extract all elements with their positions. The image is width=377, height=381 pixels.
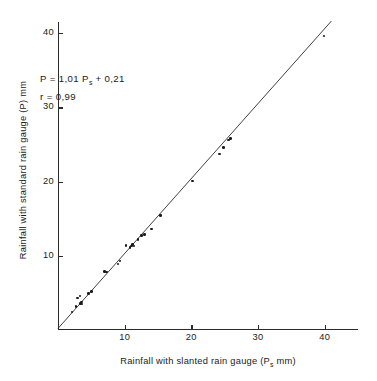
data-point bbox=[75, 305, 78, 308]
y-tick-10 bbox=[59, 256, 63, 257]
data-point bbox=[140, 234, 143, 237]
data-point bbox=[143, 233, 146, 236]
y-tick-label-40: 40 bbox=[32, 27, 54, 39]
x-tick-40 bbox=[325, 325, 326, 329]
equation-prefix: P = 1,01 P bbox=[40, 73, 89, 84]
x-tick-20 bbox=[191, 325, 192, 329]
x-tick-10 bbox=[125, 325, 126, 329]
scatter-plot-figure: Rainfall with standard rain gauge (P) mm… bbox=[0, 0, 377, 381]
data-point bbox=[159, 214, 162, 217]
data-point bbox=[87, 292, 90, 295]
y-tick-20 bbox=[59, 182, 63, 183]
x-tick-label-10: 10 bbox=[110, 332, 140, 342]
x-tick-label-20: 20 bbox=[176, 332, 206, 342]
equation-tail: + 0,21 bbox=[92, 73, 124, 84]
data-point bbox=[229, 137, 232, 140]
data-point bbox=[222, 146, 225, 149]
x-axis-label-main: Rainfall with slanted rain gauge (P bbox=[120, 356, 270, 366]
x-tick-label-30: 30 bbox=[243, 332, 273, 342]
data-point bbox=[191, 180, 194, 183]
x-axis-label-tail: mm) bbox=[274, 356, 296, 366]
x-tick-label-40: 40 bbox=[310, 332, 340, 342]
fit-annotation: P = 1,01 Ps + 0,21 r = 0,99 bbox=[40, 72, 125, 104]
x-tick-30 bbox=[258, 325, 259, 329]
y-tick-40 bbox=[59, 33, 63, 34]
x-axis-label: Rainfall with slanted rain gauge (Ps mm) bbox=[58, 356, 358, 368]
data-point bbox=[150, 228, 153, 231]
y-tick-label-20: 20 bbox=[32, 176, 54, 188]
y-tick-label-10: 10 bbox=[32, 250, 54, 262]
y-tick-30 bbox=[59, 107, 63, 108]
plot-area: 10203040 10203040 bbox=[58, 22, 358, 330]
y-axis-label: Rainfall with standard rain gauge (P) mm bbox=[12, 10, 34, 330]
regression-equation: P = 1,01 Ps + 0,21 bbox=[40, 72, 125, 90]
data-point bbox=[90, 290, 93, 293]
correlation-coefficient: r = 0,99 bbox=[40, 90, 125, 104]
regression-line bbox=[58, 22, 358, 330]
